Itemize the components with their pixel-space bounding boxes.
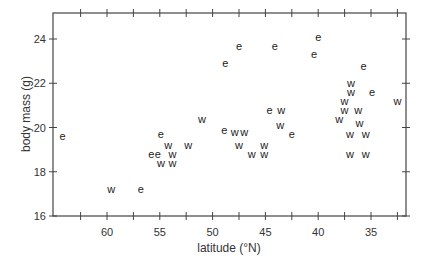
data-point-w: w	[167, 157, 176, 169]
plot-frame	[53, 13, 406, 216]
data-point-e: e	[60, 130, 66, 142]
data-point-w: w	[334, 113, 343, 125]
data-point-w: w	[361, 128, 370, 140]
x-tick-label: 40	[312, 226, 324, 238]
data-point-w: w	[106, 183, 115, 195]
data-point-e: e	[221, 124, 227, 136]
data-point-w: w	[234, 139, 243, 151]
data-point-w: w	[259, 148, 268, 160]
data-point-w: w	[361, 148, 370, 160]
data-point-w: w	[275, 119, 284, 131]
x-tick-label: 45	[259, 226, 271, 238]
x-tick-label: 35	[365, 226, 377, 238]
data-point-e: e	[289, 128, 295, 140]
y-tick-label: 24	[34, 33, 46, 45]
data-point-e: e	[158, 128, 164, 140]
x-axis-label: latitude (°N)	[197, 241, 261, 255]
y-tick-label: 20	[34, 122, 46, 134]
data-point-w: w	[276, 104, 285, 116]
data-point-e: e	[361, 60, 367, 72]
data-point-w: w	[239, 126, 248, 138]
x-tick-label: 50	[206, 226, 218, 238]
x-tick-label: 60	[101, 226, 113, 238]
data-point-e: e	[272, 40, 278, 52]
y-tick-label: 16	[34, 210, 46, 222]
data-point-e: e	[138, 183, 144, 195]
data-point-e: e	[267, 104, 273, 116]
data-point-e: e	[148, 148, 154, 160]
data-point-w: w	[392, 95, 401, 107]
data-point-w: w	[230, 126, 239, 138]
scatter-chart: 605550454035 1618202224 eeeeeeeeeeeeeeew…	[0, 0, 421, 267]
data-point-w: w	[247, 148, 256, 160]
data-point-w: w	[345, 128, 354, 140]
data-point-e: e	[222, 57, 228, 69]
data-point-e: e	[311, 48, 317, 60]
data-point-w: w	[197, 113, 206, 125]
data-point-e: e	[236, 40, 242, 52]
data-point-e: e	[369, 86, 375, 98]
x-tick-label: 55	[154, 226, 166, 238]
data-point-w: w	[345, 148, 354, 160]
y-tick-label: 18	[34, 166, 46, 178]
data-point-w: w	[156, 157, 165, 169]
data-point-w: w	[353, 104, 362, 116]
y-tick-label: 22	[34, 77, 46, 89]
data-point-w: w	[183, 139, 192, 151]
data-points: eeeeeeeeeeeeeeewwwwwwwwwwwwwwwwwwwwwwwww…	[60, 31, 402, 196]
data-point-e: e	[315, 31, 321, 43]
y-axis-label: body mass (g)	[19, 76, 33, 152]
